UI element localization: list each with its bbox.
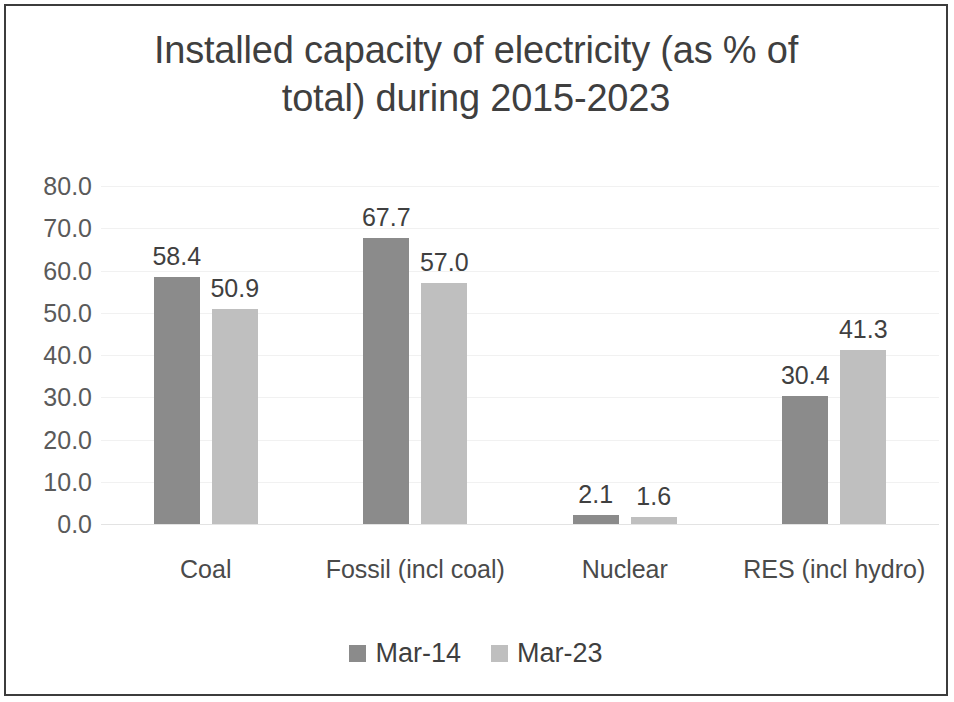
bar-nuclear-mar-23[interactable]: [631, 517, 677, 524]
legend-label: Mar-23: [517, 640, 603, 667]
x-axis-category-labels: CoalFossil (incl coal)NuclearRES (incl h…: [101, 554, 939, 594]
bar-value-label: 50.9: [195, 276, 275, 301]
y-axis: 80.070.060.050.040.030.020.010.00.0: [24, 166, 92, 546]
y-axis-tick-label: 70.0: [24, 216, 92, 241]
bar-nuclear-mar-14[interactable]: [573, 515, 619, 524]
gridline: [101, 228, 939, 229]
gridline: [101, 186, 939, 187]
y-axis-tick-label: 20.0: [24, 428, 92, 453]
x-axis-label-res-incl-hydro: RES (incl hydro): [730, 554, 940, 584]
bar-fossil-incl-coal-mar-14[interactable]: [363, 238, 409, 524]
gridline: [101, 271, 939, 272]
y-axis-tick-label: 80.0: [24, 174, 92, 199]
legend-swatch-icon: [349, 645, 366, 662]
bar-coal-mar-23[interactable]: [212, 309, 258, 524]
legend-label: Mar-14: [375, 640, 461, 667]
chart-legend: Mar-14Mar-23: [6, 640, 946, 667]
bar-fossil-incl-coal-mar-23[interactable]: [421, 283, 467, 524]
bar-value-label: 57.0: [404, 250, 484, 275]
chart-title-line-1: Installed capacity of electricity (as % …: [66, 26, 886, 74]
chart-frame: Installed capacity of electricity (as % …: [4, 4, 948, 696]
y-axis-tick-label: 50.0: [24, 301, 92, 326]
bar-value-label: 1.6: [614, 484, 694, 509]
x-axis-label-fossil-incl-coal: Fossil (incl coal): [311, 554, 521, 584]
bar-value-label: 41.3: [823, 317, 903, 342]
bar-value-label: 30.4: [765, 363, 845, 388]
y-axis-tick-label: 10.0: [24, 470, 92, 495]
plot-area: 58.450.967.757.02.11.630.441.3: [101, 182, 939, 528]
x-axis-label-coal: Coal: [101, 554, 311, 584]
bar-value-label: 67.7: [346, 205, 426, 230]
bar-res-incl-hydro-mar-14[interactable]: [782, 396, 828, 524]
y-axis-tick-label: 30.0: [24, 385, 92, 410]
y-axis-tick-label: 60.0: [24, 259, 92, 284]
legend-item-mar-23[interactable]: Mar-23: [491, 640, 603, 667]
bar-res-incl-hydro-mar-23[interactable]: [840, 350, 886, 524]
bar-coal-mar-14[interactable]: [154, 277, 200, 524]
axis-baseline: [101, 524, 939, 525]
chart-title-line-2: total) during 2015-2023: [66, 74, 886, 122]
legend-item-mar-14[interactable]: Mar-14: [349, 640, 461, 667]
chart-title: Installed capacity of electricity (as % …: [66, 26, 886, 122]
y-axis-tick-label: 0.0: [24, 512, 92, 537]
x-axis-label-nuclear: Nuclear: [520, 554, 730, 584]
legend-swatch-icon: [491, 645, 508, 662]
y-axis-tick-label: 40.0: [24, 343, 92, 368]
bar-value-label: 58.4: [137, 244, 217, 269]
